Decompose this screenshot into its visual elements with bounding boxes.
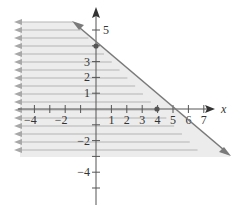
hatch-arrow-left-icon <box>14 107 22 113</box>
x-tick-label: 7 <box>201 113 207 127</box>
hatch-arrow-left-icon <box>14 131 22 137</box>
hatch-arrow-left-icon <box>14 75 22 81</box>
hatch-arrow-left-icon <box>14 19 22 25</box>
inequality-graph: −4−21234567 x 5321−2−4 <box>0 0 247 221</box>
hatch-arrow-left-icon <box>14 91 22 97</box>
y-tick-label: −2 <box>77 134 90 148</box>
hatch-arrow-left-icon <box>14 59 22 65</box>
hatch-arrow-left-icon <box>14 115 22 121</box>
x-intercept-point <box>154 106 159 111</box>
hatch-arrow-left-icon <box>14 43 22 49</box>
y-tick-label: 3 <box>84 55 90 69</box>
y-tick-label: −4 <box>77 165 90 179</box>
x-tick-label: 4 <box>155 113 161 127</box>
x-tick-label: 2 <box>124 113 130 127</box>
x-tick-label: 3 <box>139 113 145 127</box>
y-tick-label: 1 <box>84 86 90 100</box>
hatch-arrow-left-icon <box>14 123 22 129</box>
hatch-arrow-left-icon <box>14 35 22 41</box>
y-intercept-point <box>93 43 98 48</box>
hatch-arrow-left-icon <box>14 67 22 73</box>
hatch-arrow-left-icon <box>14 139 22 145</box>
hatch-arrow-left-icon <box>14 83 22 89</box>
hatch-arrow-left-icon <box>14 99 22 105</box>
x-tick-label: −2 <box>55 113 68 127</box>
x-tick-label: −4 <box>24 113 37 127</box>
y-tick-label: 2 <box>84 70 90 84</box>
shaded-region <box>20 22 230 157</box>
y-tick-label: 5 <box>103 23 109 37</box>
x-tick-label: 5 <box>170 113 176 127</box>
x-axis-label: x <box>220 102 227 116</box>
hatch-arrow-left-icon <box>14 51 22 57</box>
x-tick-label: 1 <box>108 113 114 127</box>
hatch-arrow-left-icon <box>14 147 22 153</box>
hatch-arrow-left-icon <box>14 27 22 33</box>
